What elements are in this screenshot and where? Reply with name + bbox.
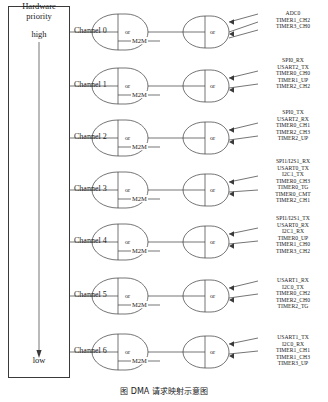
ch6-or2-gate-body — [205, 336, 229, 368]
signal-item: TIMER3_CH0 — [258, 23, 328, 30]
ch2-sig-line-2 — [229, 136, 258, 140]
ch1-sig-line-2 — [229, 84, 258, 88]
ch0-arrow-1 — [229, 19, 234, 25]
ch0-or2-gate-body — [205, 16, 229, 48]
ch3-arrow-1 — [229, 179, 234, 185]
or-gate-label-ch5-stage1: or — [125, 293, 130, 300]
channel-label-5: Channel 5 — [74, 290, 107, 299]
dma-request-mapping-diagram: Hardware priority high low Channel 0 Cha… — [0, 0, 328, 402]
ch6-sig-line-2 — [229, 351, 258, 354]
signal-item: TIMER3_UP — [258, 360, 328, 367]
or-gate-label-ch6-stage1: or — [125, 349, 130, 356]
signal-item: TIMER2_TG — [258, 303, 328, 310]
ch4-arrow-1 — [229, 231, 234, 237]
m2m-label-ch4: M2M — [131, 247, 148, 254]
or-gate-label-ch2-stage2: or — [210, 135, 215, 142]
priority-low-label: low — [8, 355, 70, 365]
signal-item: TIMER3_CH2 — [258, 248, 328, 255]
signal-list-channel-3: SPI1/I2S1_RX USART0_TX I2C1_TX TIMER0_CH… — [258, 158, 328, 204]
channel-label-2: Channel 2 — [74, 132, 107, 141]
ch5-arrow-1 — [229, 285, 234, 291]
channel-label-1: Channel 1 — [74, 80, 107, 89]
ch1-or2-gate-body — [205, 70, 229, 102]
signal-item: TIMER2_CH1 — [258, 197, 328, 204]
ch1-or-gate-body — [118, 68, 148, 104]
or-gate-label-ch2-stage1: or — [125, 135, 130, 142]
signal-item: TIMER2_CH2 — [258, 83, 328, 90]
m2m-label-ch2: M2M — [131, 143, 148, 150]
ch6-or-gate-body — [118, 334, 148, 370]
hardware-priority-box — [8, 6, 70, 378]
m2m-label-ch5: M2M — [131, 301, 148, 308]
channel-label-4: Channel 4 — [74, 236, 107, 245]
ch4-or-gate-body — [118, 224, 148, 260]
m2m-label-ch1: M2M — [131, 91, 148, 98]
or-gate-label-ch4-stage1: or — [125, 239, 130, 246]
hardware-priority-title: Hardware priority — [4, 2, 74, 21]
or-gate-label-ch5-stage2: or — [210, 293, 215, 300]
m2m-label-ch6: M2M — [131, 357, 148, 364]
ch2-or2-gate-body — [205, 122, 229, 154]
figure-caption: 图 DMA 请求映射示意图 — [0, 386, 328, 397]
ch5-or2-gate-body — [205, 280, 229, 312]
m2m-label-ch0: M2M — [131, 37, 148, 44]
channel-label-6: Channel 6 — [74, 346, 107, 355]
signal-item: TIMER2_UP — [258, 135, 328, 142]
ch6-arrow-1 — [229, 341, 234, 347]
ch1-arrow-1 — [229, 75, 234, 81]
hardware-priority-title-line2: priority — [4, 12, 74, 22]
or-gate-label-ch0-stage2: or — [210, 29, 215, 36]
signal-list-channel-0: ADC0 TIMER1_CH2 TIMER3_CH0 — [258, 10, 328, 30]
ch4-or2-gate-body — [205, 226, 229, 258]
signal-list-channel-5: USART1_RX I2C0_TX TIMER0_CH2 TIMER2_CH0 … — [258, 277, 328, 310]
ch5-sig-line-2 — [229, 294, 258, 298]
priority-high-label: high — [8, 29, 70, 39]
or-gate-label-ch1-stage2: or — [210, 83, 215, 90]
ch2-or-gate-body — [118, 120, 148, 156]
signal-list-channel-6: USART1_TX I2C0_RX TIMER1_CH1 TIMER1_CH3 … — [258, 334, 328, 367]
or-gate-label-ch6-stage2: or — [210, 349, 215, 356]
or-gate-label-ch3-stage1: or — [125, 187, 130, 194]
signal-list-channel-4: SPI1/I2S1_TX USART0_RX I2C1_RX TIMER0_UP… — [258, 215, 328, 254]
m2m-label-ch3: M2M — [131, 195, 148, 202]
ch3-or-gate-body — [118, 172, 148, 208]
ch3-or2-gate-body — [205, 174, 229, 206]
or-gate-label-ch0-stage1: or — [125, 29, 130, 36]
or-gate-label-ch1-stage1: or — [125, 83, 130, 90]
ch0-or-gate-body — [118, 14, 148, 50]
signal-list-channel-2: SPI0_TX USART2_RX TIMER0_CH1 TIMER2_CH3 … — [258, 109, 328, 142]
ch4-sig-line-2 — [229, 241, 258, 244]
signal-list-channel-1: SPI0_RX USART2_TX TIMER0_CH0 TIMER1_UP T… — [258, 57, 328, 90]
or-gate-label-ch3-stage2: or — [210, 187, 215, 194]
ch5-or-gate-body — [118, 278, 148, 314]
channel-label-0: Channel 0 — [74, 26, 107, 35]
channel-label-3: Channel 3 — [74, 184, 107, 193]
or-gate-label-ch4-stage2: or — [210, 239, 215, 246]
ch2-arrow-1 — [229, 127, 234, 133]
